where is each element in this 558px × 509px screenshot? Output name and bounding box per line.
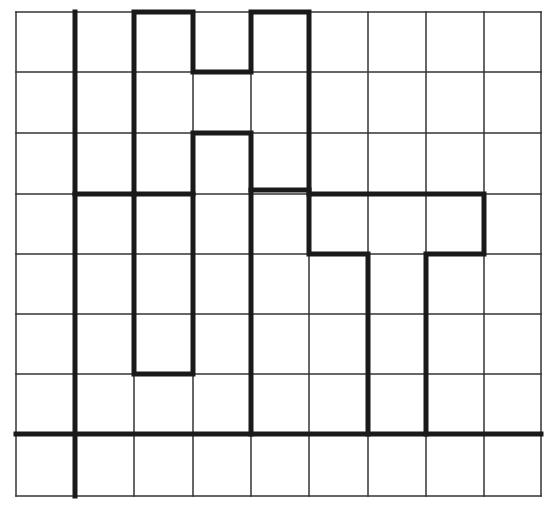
tall-bar-outline [134, 12, 309, 194]
grid-diagram [0, 0, 558, 509]
thick-outlines [75, 12, 484, 434]
